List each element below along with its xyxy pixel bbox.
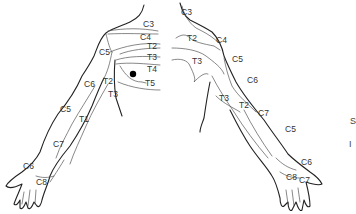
label-right-c7-forearm: C7 (258, 109, 269, 118)
label-right-c8: C8 (286, 173, 297, 182)
label-left-t3-axilla: T3 (108, 90, 118, 99)
right-chest-boundaries (172, 6, 300, 178)
label-left-t5: T5 (145, 79, 155, 88)
label-left-c7: C7 (53, 140, 64, 149)
nipple-marker (130, 71, 136, 77)
label-left-c6-upper: C6 (84, 80, 95, 89)
label-right-c6-upper: C6 (247, 76, 258, 85)
label-right-t2-chest: T2 (187, 34, 197, 43)
label-right-c6-hand: C6 (301, 158, 312, 167)
label-right-c3: C3 (181, 8, 192, 17)
label-right-t3-chest: T3 (192, 57, 202, 66)
label-left-t2-chest: T2 (147, 42, 157, 51)
finger-lines (22, 188, 300, 206)
label-right-c5-shoulder: C5 (232, 55, 243, 64)
label-left-c8: C8 (36, 178, 47, 187)
label-left-t1: T1 (79, 115, 89, 124)
left-chest-boundaries (36, 29, 160, 182)
label-left-c6-hand: C6 (23, 162, 34, 171)
edge-text-1: S (350, 117, 356, 126)
label-left-c5-forearm: C5 (60, 105, 71, 114)
label-right-c5-forearm: C5 (285, 125, 296, 134)
edge-text-2: I (349, 140, 352, 149)
label-right-t2-axilla: T2 (239, 101, 249, 110)
label-left-c5-shoulder: C5 (99, 48, 110, 57)
label-right-c7-hand: C7 (299, 176, 310, 185)
label-left-t4: T4 (147, 65, 157, 74)
label-left-t3-chest: T3 (147, 53, 157, 62)
label-left-c3: C3 (143, 20, 154, 29)
label-right-t3-axilla: T3 (219, 94, 229, 103)
label-left-t2-axilla: T2 (103, 77, 113, 86)
label-right-c4: C4 (216, 36, 227, 45)
left-arm-outline (6, 5, 144, 209)
